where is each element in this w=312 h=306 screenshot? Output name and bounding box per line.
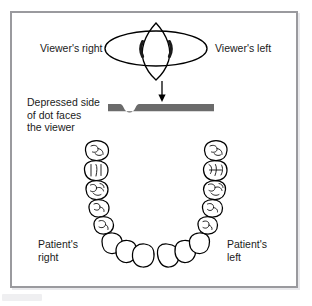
- tooth-lower-left-second-premolar: [202, 200, 222, 218]
- label-patients-right: Patient's right: [38, 238, 78, 263]
- label-viewers-left: Viewer's left: [215, 42, 271, 55]
- tooth-lower-right-second-premolar: [89, 200, 109, 218]
- eye-lens-diagram: [103, 20, 209, 82]
- label-viewers-right: Viewer's right: [40, 42, 103, 55]
- tooth-lower-right-first-molar: [86, 181, 108, 200]
- film-edge-bar: [108, 102, 214, 118]
- down-arrow-icon: [155, 80, 169, 104]
- tooth-lower-right-first-premolar: [94, 217, 114, 235]
- tooth-lower-right-central-incisor: [132, 244, 154, 267]
- tooth-lower-right-third-molar: [85, 141, 108, 161]
- scan-edge-artifact: [2, 294, 42, 301]
- tooth-lower-left-second-molar: [204, 161, 228, 181]
- tooth-lower-left-canine: [189, 233, 209, 254]
- tooth-lower-left-third-molar: [205, 141, 228, 161]
- label-depressed-side-of-dot: Depressed side of dot faces the viewer: [27, 96, 100, 134]
- tooth-lower-left-first-premolar: [198, 217, 218, 235]
- mandibular-dental-arch: [78, 138, 234, 286]
- label-patients-left: Patient's left: [227, 238, 267, 263]
- eye-outer-ellipse: [105, 31, 207, 66]
- figure-root: Viewer's right Viewer's left Depressed s…: [0, 0, 312, 306]
- tooth-lower-right-second-molar: [84, 161, 108, 181]
- film-bar-shape: [108, 104, 214, 113]
